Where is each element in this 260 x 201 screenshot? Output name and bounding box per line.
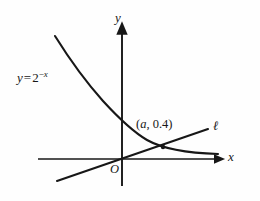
- curve-equation-equals: =: [23, 70, 32, 85]
- line-l-label: ℓ: [213, 119, 218, 132]
- point-coordinate-label: (a, 0.4): [136, 118, 172, 131]
- curve-equation-exponent-variable: x: [44, 69, 48, 79]
- origin-label: O: [110, 163, 119, 176]
- point-label-value: , 0.4): [146, 117, 172, 131]
- graph-canvas: [0, 0, 260, 201]
- intersection-point-marker: [161, 145, 165, 149]
- x-axis-label: x: [228, 150, 234, 163]
- exponential-curve: [55, 36, 218, 154]
- curve-equation-label: y=2−x: [17, 71, 48, 84]
- curve-equation-y: y: [17, 70, 23, 85]
- y-axis-label: y: [115, 11, 121, 24]
- math-figure: y=2−x (a, 0.4) y x ℓ O: [0, 0, 260, 201]
- straight-line-l: [57, 129, 208, 181]
